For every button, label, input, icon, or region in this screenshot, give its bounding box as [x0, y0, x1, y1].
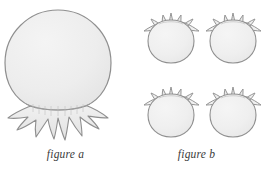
figure-b-panel: figure b [131, 0, 262, 172]
illustration-stage: figure a [0, 0, 262, 172]
pomegranate-small-4 [206, 87, 261, 137]
pomegranate-body [5, 10, 111, 110]
figure-a-drawing [0, 0, 131, 145]
figure-b-caption: figure b [131, 148, 262, 160]
figure-a-caption: figure a [0, 148, 131, 160]
figure-a-panel: figure a [0, 0, 131, 172]
figure-b-drawing [131, 0, 262, 145]
pomegranate-small-1 [144, 13, 199, 63]
pomegranate-small-3 [144, 87, 199, 137]
pomegranate-small-2 [206, 13, 261, 63]
pomegranate-large [5, 10, 111, 140]
